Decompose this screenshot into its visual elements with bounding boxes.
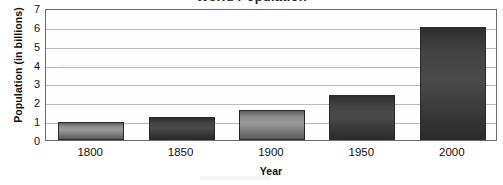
x-axis-tick-labels: 18001850190019502000 <box>45 146 497 162</box>
x-tick-label: 1850 <box>135 146 225 158</box>
bar-1850 <box>149 117 215 140</box>
chart-title-clipped: World Population <box>0 0 503 6</box>
bar-1900 <box>239 110 305 140</box>
y-tick-label: 2 <box>22 98 40 109</box>
y-tick-label: 7 <box>22 4 40 15</box>
y-tick-label: 4 <box>22 60 40 71</box>
x-tick-label: 2000 <box>407 146 497 158</box>
bar-2000 <box>420 27 486 140</box>
x-axis-title: Year <box>45 165 497 177</box>
y-tick-label: 0 <box>22 136 40 147</box>
y-tick-label: 5 <box>22 41 40 52</box>
x-tick-label: 1900 <box>226 146 316 158</box>
x-tick-label: 1950 <box>316 146 406 158</box>
x-tick-label: 1800 <box>45 146 135 158</box>
bar-1950 <box>329 95 395 140</box>
y-tick-label: 1 <box>22 117 40 128</box>
bar-1800 <box>58 122 124 140</box>
y-axis-tick-labels: 01234567 <box>22 0 40 185</box>
chart-title: World Population <box>0 0 503 4</box>
population-bar-chart: World Population Population (in billions… <box>0 0 503 185</box>
bars-group <box>46 10 496 140</box>
y-tick-label: 6 <box>22 22 40 33</box>
y-tick-label: 3 <box>22 79 40 90</box>
plot-area <box>45 9 497 141</box>
